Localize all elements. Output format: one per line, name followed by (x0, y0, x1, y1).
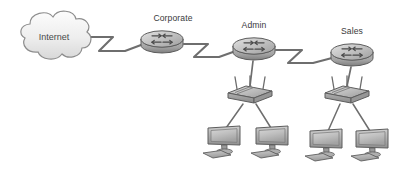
internet-cloud-label: Internet (39, 32, 70, 42)
network-topology-diagram: Internet Corporate Admin (0, 0, 396, 173)
monitor-screen (259, 129, 285, 143)
switch-sales (325, 76, 369, 103)
link-admin-to-sales (276, 50, 332, 63)
link-corporate-to-admin (184, 44, 233, 57)
link-internet-to-corporate (87, 37, 141, 51)
router-corporate-label: Corporate (153, 13, 192, 23)
router-body-top (233, 38, 275, 54)
router-admin: Admin (233, 20, 275, 60)
internet-cloud: Internet (21, 11, 91, 59)
workstation-admin-pc-1 (203, 126, 240, 158)
router-admin-label: Admin (242, 20, 267, 30)
router-sales: Sales (331, 26, 373, 66)
router-corporate: Corporate (141, 13, 193, 53)
link-sales-switch-to-pc-2 (353, 104, 370, 131)
diagram-canvas: Internet Corporate Admin (0, 0, 396, 173)
router-body-top (141, 31, 183, 47)
switch-admin (228, 76, 272, 103)
link-admin-switch-to-pc-2 (256, 104, 271, 128)
monitor-screen (313, 132, 339, 146)
link-admin-switch-to-pc-1 (226, 104, 243, 128)
router-sales-label: Sales (341, 26, 363, 36)
links-layer (87, 37, 370, 131)
workstation-admin-pc-2 (251, 126, 288, 158)
workstation-sales-pc-2 (351, 129, 388, 161)
monitor-screen (211, 129, 237, 143)
monitor-screen (359, 132, 385, 146)
router-body-top (331, 44, 373, 60)
workstation-sales-pc-1 (305, 129, 342, 161)
link-sales-switch-to-pc-1 (328, 104, 340, 131)
